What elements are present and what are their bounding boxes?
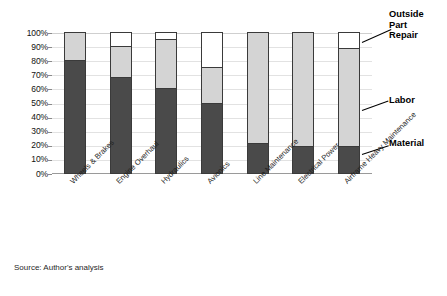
y-tick-label: 0% — [2, 170, 48, 179]
bar-segment-material[interactable] — [155, 88, 177, 174]
y-tick-label: 70% — [2, 71, 48, 80]
bar-segment-outside-part-repair[interactable] — [155, 32, 177, 40]
y-tick-label: 90% — [2, 43, 48, 52]
y-tick-label: 60% — [2, 85, 48, 94]
stacked-bar-chart: 0%10%20%30%40%50%60%70%80%90%100% Wheels… — [0, 0, 447, 296]
bar-segment-labor[interactable] — [292, 32, 314, 147]
bar-group[interactable] — [292, 33, 314, 174]
callout-material: Material — [389, 138, 424, 149]
bar-group[interactable] — [155, 33, 177, 174]
bar-segment-outside-part-repair[interactable] — [338, 32, 360, 49]
y-tick-label: 30% — [2, 127, 48, 136]
y-tick-label: 100% — [2, 29, 48, 38]
y-tick-label: 80% — [2, 57, 48, 66]
bar-segment-outside-part-repair[interactable] — [110, 32, 132, 47]
y-tick-mark — [48, 174, 52, 175]
bar-segment-material[interactable] — [64, 60, 86, 174]
bar-segment-labor[interactable] — [247, 32, 269, 144]
bar-segment-labor[interactable] — [110, 46, 132, 78]
callout-labor: Labor — [389, 95, 415, 106]
bar-segment-outside-part-repair[interactable] — [201, 32, 223, 68]
bar-group[interactable] — [110, 33, 132, 174]
bar-segment-labor[interactable] — [201, 67, 223, 103]
source-note: Source: Author's analysis — [14, 263, 104, 272]
y-axis: 0%10%20%30%40%50%60%70%80%90%100% — [0, 33, 48, 174]
bar-segment-labor[interactable] — [155, 39, 177, 89]
y-tick-label: 50% — [2, 99, 48, 108]
y-tick-label: 10% — [2, 155, 48, 164]
bar-group[interactable] — [64, 33, 86, 174]
y-tick-label: 40% — [2, 113, 48, 122]
bar-group[interactable] — [338, 33, 360, 174]
callout-outside-part-repair: Outside Part Repair — [389, 9, 424, 41]
bar-segment-labor[interactable] — [338, 48, 360, 148]
bar-group[interactable] — [247, 33, 269, 174]
bar-group[interactable] — [201, 33, 223, 174]
bar-segment-labor[interactable] — [64, 32, 86, 61]
bar-segment-material[interactable] — [110, 77, 132, 174]
y-tick-label: 20% — [2, 141, 48, 150]
